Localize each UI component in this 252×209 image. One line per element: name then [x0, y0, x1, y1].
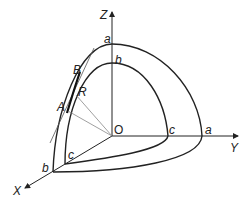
- x-axis-label: X: [13, 185, 21, 197]
- outer-y-label: a: [205, 124, 212, 136]
- point-A-label: A: [57, 101, 65, 113]
- ellipsoid-octant-diagram: Z Y X O a a b b c c B R A: [0, 0, 252, 209]
- point-R-label: R: [78, 86, 87, 98]
- origin-label: O: [114, 124, 123, 136]
- inner-curve-yx: [65, 136, 168, 164]
- diagram-drawing: [0, 0, 252, 209]
- z-axis-label: Z: [100, 9, 107, 21]
- point-B-label: B: [73, 64, 81, 76]
- inner-z-label: b: [115, 54, 122, 66]
- outer-z-label: a: [104, 33, 111, 45]
- outer-x-label: b: [42, 162, 49, 174]
- x-axis: [25, 136, 112, 188]
- outer-curve-zy: [112, 44, 202, 136]
- ray-OR: [76, 95, 112, 136]
- inner-x-label: c: [68, 149, 74, 161]
- y-axis-label: Y: [230, 142, 238, 154]
- ray-OA: [68, 111, 112, 136]
- inner-y-label: c: [169, 124, 175, 136]
